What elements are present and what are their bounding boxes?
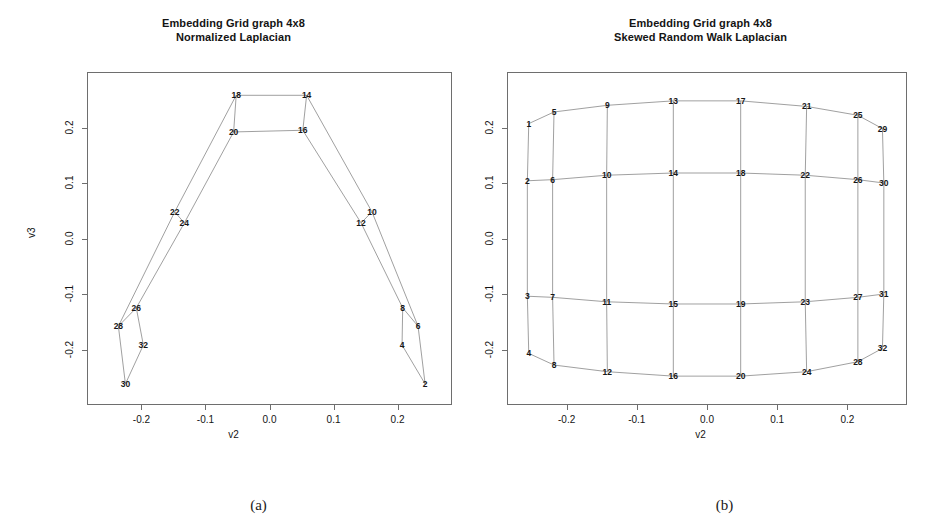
graph-edges-a bbox=[87, 72, 452, 405]
graph-node-label: 16 bbox=[669, 372, 678, 381]
graph-edge bbox=[553, 297, 607, 301]
y-tickmark bbox=[502, 350, 507, 351]
x-tick-label: -0.2 bbox=[133, 414, 150, 425]
x-tickmark bbox=[270, 405, 271, 410]
xaxis-title-a: v2 bbox=[0, 429, 467, 440]
graph-node-label: 1 bbox=[526, 119, 531, 128]
graph-node-label: 8 bbox=[552, 361, 557, 370]
plot-area-a: 2468101214161820222426283032 -0.2-0.10.0… bbox=[87, 72, 452, 405]
x-tick-label: 0.1 bbox=[327, 414, 341, 425]
graph-edge bbox=[418, 326, 425, 384]
x-tick-label: -0.1 bbox=[197, 414, 214, 425]
x-tickmark bbox=[205, 405, 206, 410]
graph-node-label: 10 bbox=[367, 208, 376, 217]
graph-edge bbox=[307, 95, 372, 212]
graph-node-label: 6 bbox=[416, 322, 421, 331]
y-tickmark bbox=[502, 294, 507, 295]
graph-node-label: 28 bbox=[853, 357, 862, 366]
graph-node-label: 26 bbox=[132, 304, 141, 313]
graph-node-label: 29 bbox=[878, 124, 887, 133]
graph-node-label: 14 bbox=[669, 169, 678, 178]
plot-title-a-line1: Embedding Grid graph 4x8 bbox=[162, 17, 305, 29]
graph-edge bbox=[553, 112, 554, 180]
graph-node-label: 12 bbox=[603, 367, 612, 376]
graph-node-label: 23 bbox=[801, 298, 810, 307]
graph-edge bbox=[372, 212, 418, 326]
y-tickmark bbox=[502, 128, 507, 129]
graph-node-label: 32 bbox=[878, 344, 887, 353]
y-tick-label: 0.1 bbox=[484, 171, 495, 195]
y-tick-label: 0.0 bbox=[484, 226, 495, 250]
graph-node-label: 28 bbox=[114, 322, 123, 331]
graph-edge bbox=[607, 105, 608, 175]
xaxis-title-b: v2 bbox=[467, 429, 934, 440]
graph-node-label: 19 bbox=[736, 300, 745, 309]
graph-node-label: 13 bbox=[669, 97, 678, 106]
graph-edge bbox=[807, 106, 858, 115]
graph-edge bbox=[607, 101, 673, 105]
caption-a: (a) bbox=[0, 497, 467, 514]
y-tickmark bbox=[502, 239, 507, 240]
graph-edge bbox=[553, 175, 607, 179]
graph-edge bbox=[175, 95, 236, 212]
graph-node-label: 24 bbox=[180, 219, 189, 228]
graph-node-label: 22 bbox=[801, 171, 810, 180]
graph-node-label: 9 bbox=[605, 101, 610, 110]
y-tickmark bbox=[82, 128, 87, 129]
x-tickmark bbox=[637, 405, 638, 410]
x-tick-label: 0.2 bbox=[391, 414, 405, 425]
x-tickmark bbox=[847, 405, 848, 410]
x-tickmark bbox=[567, 405, 568, 410]
x-tickmark bbox=[398, 405, 399, 410]
graph-edge bbox=[118, 212, 174, 326]
graph-node-label: 10 bbox=[602, 171, 611, 180]
caption-b: (b) bbox=[467, 497, 934, 514]
graph-edge bbox=[527, 296, 552, 297]
graph-node-label: 2 bbox=[525, 177, 530, 186]
graph-edge bbox=[184, 132, 233, 223]
graph-node-label: 31 bbox=[879, 290, 888, 299]
figure-panel-a: Embedding Grid graph 4x8 Normalized Lapl… bbox=[0, 0, 467, 528]
graph-edge bbox=[805, 175, 858, 179]
graph-node-label: 26 bbox=[853, 175, 862, 184]
graph-edge bbox=[527, 296, 528, 353]
graph-node-label: 15 bbox=[669, 300, 678, 309]
x-tickmark bbox=[707, 405, 708, 410]
graph-node-label: 17 bbox=[736, 97, 745, 106]
graph-node-label: 22 bbox=[170, 208, 179, 217]
x-tickmark bbox=[334, 405, 335, 410]
y-tickmark bbox=[82, 239, 87, 240]
plot-title-b: Embedding Grid graph 4x8 Skewed Random W… bbox=[467, 16, 934, 44]
graph-node-label: 18 bbox=[231, 91, 240, 100]
graph-edge bbox=[234, 130, 303, 132]
graph-edge bbox=[529, 353, 554, 365]
graph-edge bbox=[607, 372, 673, 376]
graph-edge bbox=[741, 101, 807, 107]
x-tick-label: -0.1 bbox=[628, 414, 645, 425]
x-tick-label: 0.0 bbox=[263, 414, 277, 425]
graph-node-label: 4 bbox=[400, 341, 405, 350]
graph-node-label: 16 bbox=[298, 126, 307, 135]
graph-edge bbox=[882, 129, 883, 183]
graph-edge bbox=[554, 105, 607, 112]
plot-title-b-line1: Embedding Grid graph 4x8 bbox=[629, 17, 772, 29]
graph-node-label: 5 bbox=[552, 108, 557, 117]
x-tick-label: 0.1 bbox=[770, 414, 784, 425]
graph-node-label: 20 bbox=[229, 128, 238, 137]
graph-node-label: 2 bbox=[423, 380, 428, 389]
graph-edge bbox=[741, 173, 806, 175]
graph-edge bbox=[807, 362, 858, 372]
graph-node-label: 14 bbox=[302, 91, 311, 100]
x-tickmark bbox=[141, 405, 142, 410]
graph-node-label: 25 bbox=[853, 111, 862, 120]
graph-edge bbox=[741, 302, 806, 304]
graph-node-label: 11 bbox=[602, 298, 611, 307]
graph-node-label: 7 bbox=[550, 293, 555, 302]
y-tick-label: -0.2 bbox=[64, 337, 75, 361]
y-tick-label: 0.1 bbox=[64, 171, 75, 195]
plot-area-b: 1234567891011121314151617181920212223242… bbox=[507, 72, 907, 405]
graph-node-label: 20 bbox=[736, 372, 745, 381]
y-tick-label: -0.2 bbox=[484, 337, 495, 361]
y-tickmark bbox=[82, 183, 87, 184]
graph-edge bbox=[402, 345, 425, 384]
